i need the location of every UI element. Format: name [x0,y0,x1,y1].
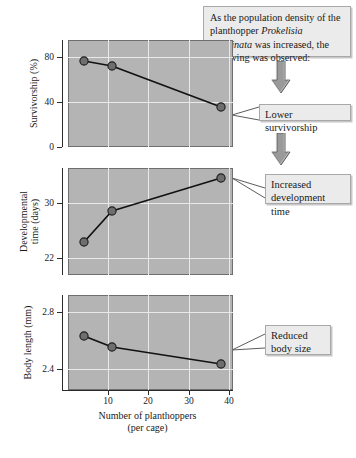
callout-body-size-line-1: Reduced [271,329,325,342]
data-point [108,207,116,215]
chart-survivorship [68,40,233,147]
y-axis-line-survivorship [62,40,63,147]
down-arrow-1 [271,61,291,94]
data-point [80,238,88,246]
down-arrow-2 [271,133,291,166]
x-tick-label: 30 [184,396,194,406]
x-axis-title-line-1: Number of planthoppers [62,410,233,422]
y-tick [57,312,62,313]
callout-development-line-2: development time [271,191,345,218]
callout-increased-development-time: Increased development time [265,174,351,204]
x-tick [108,391,109,395]
figure-root: As the population density of the plantho… [0,0,356,458]
x-tick [189,391,190,395]
data-point [217,103,225,111]
y-tick [57,57,62,58]
callout-body-size-line-2: body size [271,342,325,355]
series-body-length [68,295,233,390]
data-point [108,62,116,70]
x-axis-title: Number of planthoppers (per cage) [62,410,233,434]
callout-development-line-1: Increased [271,178,345,191]
x-tick [148,391,149,395]
y-tick [57,203,62,204]
series-survivorship [68,40,233,147]
callout-reduced-body-size: Reduced body size [265,325,331,355]
y-axis-title-developmental-time: Developmental time (days) [18,168,40,275]
y-axis-title-line-1: Developmental [18,168,29,275]
y-tick [57,147,62,148]
data-point [217,360,225,368]
x-tick [229,391,230,395]
callout-lower-survivorship: Lower survivorship [259,104,351,121]
data-point [80,57,88,65]
series-developmental-time [68,168,233,275]
leader-line-body-size [232,330,266,354]
data-point [80,332,88,340]
callout-lower-survivorship-label: Lower survivorship [265,109,318,133]
y-tick [57,369,62,370]
x-tick-label: 10 [103,396,113,406]
y-tick [57,102,62,103]
y-axis-line-developmental-time [62,168,63,275]
y-tick [57,258,62,259]
y-axis-title-line-2: time (days) [29,168,40,275]
x-tick-label: 20 [143,396,153,406]
data-point [217,174,225,182]
chart-body-length [68,295,233,390]
x-axis-title-line-2: (per cage) [62,422,233,434]
data-point [108,343,116,351]
y-axis-title-body-length: Body length (mm) [22,295,33,390]
x-tick-label: 40 [224,396,234,406]
leader-line-development [232,176,266,200]
y-axis-line-body-length [62,295,63,390]
y-axis-title-survivorship: Survivorship (%) [28,40,39,147]
chart-developmental-time [68,168,233,275]
leader-line-survivorship [232,104,260,124]
